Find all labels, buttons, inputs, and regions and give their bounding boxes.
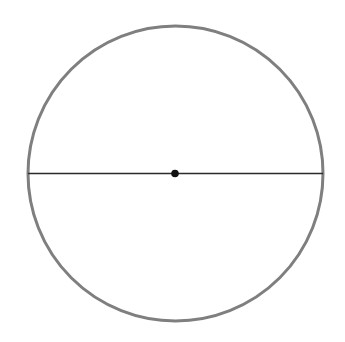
center-point xyxy=(171,170,179,178)
circle-diagram xyxy=(0,0,345,342)
diagram-canvas xyxy=(0,0,345,342)
